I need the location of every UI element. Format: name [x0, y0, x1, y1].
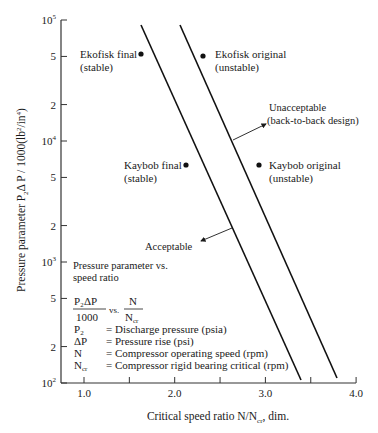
- definition-symbol: N: [74, 347, 82, 359]
- y-tick-label: 2: [51, 99, 57, 111]
- point-ekofisk-original: [200, 53, 205, 58]
- formula-numerator: P₂ΔP: [74, 295, 97, 307]
- acceptable-arrow: [201, 228, 232, 241]
- label-kaybob-original: Kaybob original: [269, 159, 341, 171]
- chart-svg: 105521045210352102 1.02.03.04.0 Ekofisk …: [0, 0, 378, 433]
- formula-denominator: 1000: [76, 311, 99, 323]
- unacceptable-sublabel: (back-to-back design): [267, 115, 359, 127]
- definition-symbol: ΔP: [74, 335, 87, 347]
- formula-vs: vs.: [109, 305, 119, 315]
- y-tick-label: 103: [42, 255, 57, 268]
- unacceptable-arrow: [233, 124, 266, 140]
- formula: P₂ΔP 1000 vs. N Ncr: [73, 295, 143, 325]
- y-tick-label: 2: [51, 220, 57, 232]
- point-kaybob-original: [256, 162, 261, 167]
- y-axis-label: Pressure parameter P2Δ P / 1000(lb2/in4): [15, 108, 30, 292]
- label-kaybob-original-status: (unstable): [269, 172, 313, 185]
- legend-title-line1: Pressure parameter vs.: [73, 260, 168, 271]
- y-tick-label: 105: [42, 13, 57, 26]
- point-kaybob-final: [183, 162, 188, 167]
- acceptable-label: Acceptable: [145, 241, 193, 252]
- definition-symbol: Ncr: [74, 359, 88, 373]
- y-ticks: 105521045210352102: [42, 13, 68, 389]
- y-tick-label: 5: [51, 292, 57, 304]
- y-tick-label: 5: [51, 171, 57, 183]
- x-ticks: 1.02.03.04.0: [77, 377, 363, 399]
- label-ekofisk-final: Ekofisk final: [80, 48, 137, 60]
- unacceptable-label: Unacceptable: [269, 102, 326, 113]
- label-ekofisk-original-status: (unstable): [215, 61, 259, 74]
- y-tick-label: 5: [51, 50, 57, 62]
- y-tick-label: 102: [42, 376, 57, 389]
- formula-ratio-numerator: N: [129, 295, 137, 307]
- x-tick-label: 3.0: [259, 387, 273, 399]
- x-axis-label: Critical speed ratio N/Ncr, dim.: [147, 410, 289, 425]
- label-kaybob-final: Kaybob final: [124, 159, 182, 171]
- label-ekofisk-original: Ekofisk original: [215, 48, 286, 60]
- x-tick-label: 4.0: [349, 387, 363, 399]
- legend-title-line2: speed ratio: [73, 272, 119, 283]
- point-ekofisk-final: [138, 51, 143, 56]
- label-kaybob-final-status: (stable): [124, 172, 157, 185]
- label-ekofisk-final-status: (stable): [80, 61, 113, 74]
- definitions-list: P2= Discharge pressure (psia)ΔP= Pressur…: [74, 323, 289, 373]
- y-tick-label: 2: [51, 341, 57, 353]
- y-tick-label: 104: [42, 134, 57, 147]
- chart-figure: 105521045210352102 1.02.03.04.0 Ekofisk …: [0, 0, 378, 433]
- x-tick-label: 1.0: [77, 387, 91, 399]
- definition-text: = Compressor rigid bearing critical (rpm…: [106, 359, 289, 372]
- x-tick-label: 2.0: [168, 387, 182, 399]
